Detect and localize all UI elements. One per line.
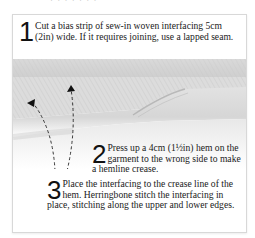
step-text: Place the interfacing to the crease line… [47,178,234,210]
step-text: Cut a bias strip of sew-in woven interfa… [35,20,233,42]
step-3: 3 Place the interfacing to the crease li… [47,179,237,211]
step-text: Press up a 4cm (1½in) hem on the garment… [92,142,241,174]
step-number: 3 [47,180,61,200]
step-number: 2 [92,144,106,164]
step-number: 1 [19,22,34,42]
step-1: 1 Cut a bias strip of sew-in woven inter… [19,21,241,42]
instruction-card: 1 Cut a bias strip of sew-in woven inter… [12,14,247,233]
step-2: 2 Press up a 4cm (1½in) hem on the garme… [92,143,242,175]
cut-off-heading: · · · · · · · [50,0,160,3]
